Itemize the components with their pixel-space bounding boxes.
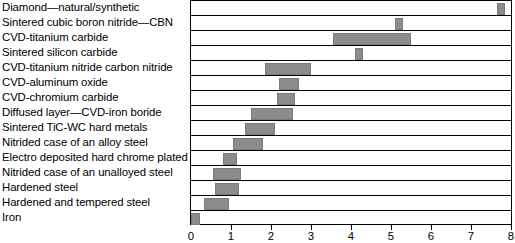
category-label: Sintered silicon carbide [2, 45, 188, 60]
category-label: CVD-chromium carbide [2, 90, 188, 105]
range-bar [355, 48, 363, 60]
axis-tick-label: 5 [388, 230, 394, 242]
chart-row [191, 151, 511, 166]
range-bar [233, 138, 263, 150]
chart-row [191, 61, 511, 76]
chart-row [191, 166, 511, 181]
range-bar [223, 153, 237, 165]
range-bar [191, 213, 200, 225]
chart-row [191, 1, 511, 16]
category-label: Hardened and tempered steel [2, 195, 188, 210]
category-label: Sintered cubic boron nitride—CBN [2, 15, 188, 30]
chart-row [191, 196, 511, 211]
chart-row [191, 16, 511, 31]
category-label: Hardened steel [2, 180, 188, 195]
category-label-column: Diamond—natural/syntheticSintered cubic … [0, 0, 190, 225]
category-label: Sintered TiC-WC hard metals [2, 120, 188, 135]
axis-tick-label: 1 [228, 230, 234, 242]
category-label: Iron [2, 210, 188, 225]
category-label: CVD-titanium nitride carbon nitride [2, 60, 188, 75]
axis-tick-label: 7 [468, 230, 474, 242]
chart-row [191, 121, 511, 136]
axis-tick-label: 3 [308, 230, 314, 242]
category-label: CVD-aluminum oxide [2, 75, 188, 90]
category-label: Nitrided case of an unalloyed steel [2, 165, 188, 180]
chart-row [191, 211, 511, 226]
range-bar [277, 93, 295, 105]
range-bar [245, 123, 275, 135]
plot-area [190, 0, 512, 225]
axis-tick-label: 4 [348, 230, 354, 242]
category-label: CVD-titanium carbide [2, 30, 188, 45]
chart-row [191, 181, 511, 196]
axis-tick-label: 8 [508, 230, 514, 242]
range-bar [333, 33, 411, 45]
range-bar [213, 168, 241, 180]
chart-row [191, 136, 511, 151]
range-bar [395, 18, 403, 30]
category-label: Nitrided case of an alloy steel [2, 135, 188, 150]
range-bar [497, 3, 505, 15]
chart-row [191, 91, 511, 106]
chart-row [191, 31, 511, 46]
range-bar [279, 78, 299, 90]
axis-tick-label: 2 [268, 230, 274, 242]
range-bar [215, 183, 239, 195]
hardness-range-bar-chart: Diamond—natural/syntheticSintered cubic … [0, 0, 515, 243]
category-label: Diamond—natural/synthetic [2, 0, 188, 15]
range-bar [251, 108, 293, 120]
chart-row [191, 46, 511, 61]
category-label: Diffused layer—CVD-iron boride [2, 105, 188, 120]
axis-tick-label: 6 [428, 230, 434, 242]
chart-row [191, 106, 511, 121]
category-label: Electro deposited hard chrome plated [2, 150, 188, 165]
range-bar [265, 63, 311, 75]
axis-tick-label: 0 [188, 230, 194, 242]
range-bar [204, 198, 229, 210]
x-axis: 012345678 [190, 225, 512, 243]
chart-row [191, 76, 511, 91]
